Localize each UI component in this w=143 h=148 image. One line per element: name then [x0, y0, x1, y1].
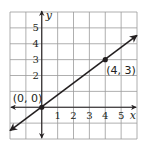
x-tick-label: 5	[118, 110, 124, 121]
y-tick-label: 4	[32, 38, 38, 49]
data-point	[39, 105, 44, 110]
data-point	[103, 57, 108, 62]
x-axis-label: x	[130, 109, 137, 122]
y-tick-label: 2	[32, 70, 38, 81]
y-tick-label: 3	[32, 54, 38, 65]
y-tick-label: 5	[32, 22, 38, 33]
x-tick-label: 2	[70, 110, 76, 121]
x-tick-label: 1	[54, 110, 60, 121]
coordinate-plane: 123452345 (0, 0)(4, 3) x y	[0, 0, 143, 148]
x-tick-label: 4	[102, 110, 108, 121]
data-point-label: (4, 3)	[106, 64, 136, 77]
y-axis-label: y	[45, 9, 53, 22]
data-point-label: (0, 0)	[13, 92, 43, 105]
x-tick-label: 3	[86, 110, 92, 121]
